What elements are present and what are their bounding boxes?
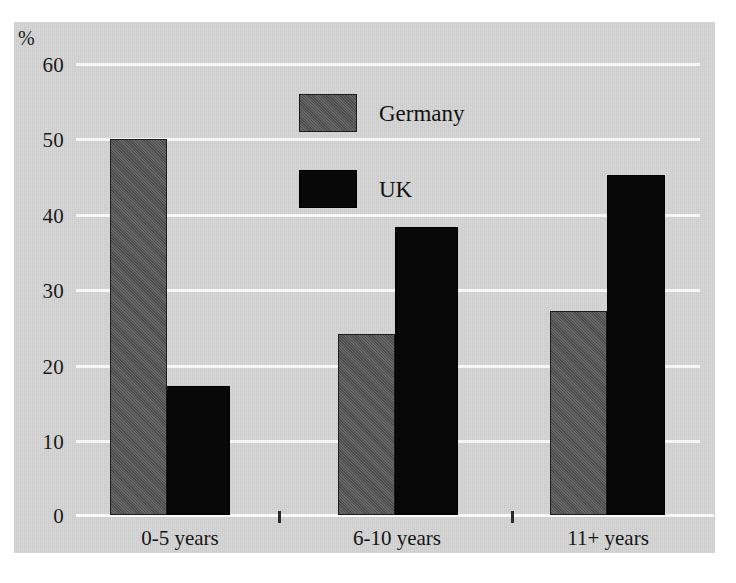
legend-entry-uk: UK	[299, 170, 412, 208]
legend-label-germany: Germany	[379, 102, 465, 125]
uk-swatch-icon	[299, 170, 357, 208]
x-axis-label-0-5-years: 0-5 years	[100, 528, 260, 549]
y-tick-label-60: 60	[20, 55, 64, 76]
bar-germany-0-5-years	[110, 139, 167, 515]
germany-swatch-icon	[299, 94, 357, 132]
bar-germany-6-10-years	[338, 334, 395, 515]
gridline-50	[76, 138, 700, 141]
y-tick-label-10: 10	[20, 432, 64, 453]
gridline-60	[76, 63, 700, 66]
y-tick-label-50: 50	[20, 130, 64, 151]
y-tick-label-30: 30	[20, 281, 64, 302]
x-axis-tick-1	[278, 511, 281, 523]
y-axis-unit-label: %	[18, 28, 35, 48]
y-tick-label-0: 0	[20, 506, 64, 527]
bar-uk-6-10-years	[395, 227, 458, 515]
y-tick-label-20: 20	[20, 357, 64, 378]
legend-entry-germany: Germany	[299, 94, 465, 132]
legend-label-uk: UK	[379, 178, 412, 201]
bar-germany-11-plus-years	[550, 311, 607, 515]
x-axis-label-11-plus-years: 11+ years	[528, 528, 688, 549]
plot-area: % 60 50 40 30 20 10 0 0-5 years 6-10 yea…	[14, 22, 715, 553]
bar-uk-11-plus-years	[607, 175, 665, 515]
bar-chart-figure: % 60 50 40 30 20 10 0 0-5 years 6-10 yea…	[0, 0, 736, 583]
bar-uk-0-5-years	[167, 386, 230, 515]
x-axis-label-6-10-years: 6-10 years	[317, 528, 477, 549]
x-axis-tick-2	[511, 511, 514, 523]
y-tick-label-40: 40	[20, 206, 64, 227]
